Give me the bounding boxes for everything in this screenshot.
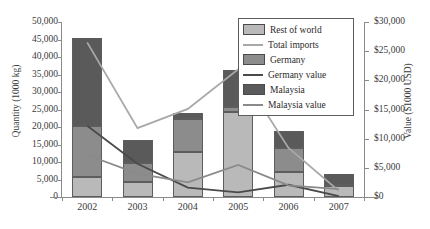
x-axis-tickmark <box>112 197 113 201</box>
y-axis-left-ticks: 05,00010,00015,00020,00025,00030,00035,0… <box>14 0 58 229</box>
y-axis-right-tickmark <box>365 80 369 81</box>
y-axis-left-tick-label: 35,000 <box>14 70 58 79</box>
y-axis-left-tick-label: 45,000 <box>14 35 58 44</box>
y-axis-right-ticks: $0$5,000$10,000$15,000$20,000$25,000$30,… <box>374 0 426 229</box>
y-axis-left-tick-label: 15,000 <box>14 140 58 149</box>
legend-line-marker <box>243 104 263 106</box>
legend-item[interactable]: Germany <box>243 52 349 67</box>
legend-swatch <box>243 54 265 65</box>
y-axis-left-tick-label: 25,000 <box>14 105 58 114</box>
y-axis-right-tick-label: $30,000 <box>374 17 405 26</box>
y-axis-right-tick-label: $20,000 <box>374 75 405 84</box>
x-axis-tickmark <box>314 197 315 201</box>
y-axis-right-tick-label: $25,000 <box>374 46 405 55</box>
y-axis-right-tick-label: $15,000 <box>374 105 405 114</box>
y-axis-left-tick-label: 5,000 <box>14 175 58 184</box>
legend-swatch <box>243 24 265 35</box>
y-axis-left-tick-label: 10,000 <box>14 157 58 166</box>
legend-label: Germany value <box>268 70 326 80</box>
x-axis-tickmark <box>213 197 214 201</box>
y-axis-left-tick-label: 20,000 <box>14 122 58 131</box>
y-axis-right-tickmark <box>365 168 369 169</box>
x-axis-tickmark <box>263 197 264 201</box>
x-axis-tickmark <box>62 197 63 201</box>
x-axis-tick-label: 2007 <box>309 201 369 212</box>
y-axis-right-line <box>364 22 365 198</box>
stacked-bar-line-chart: Quantity (1000 kg) Value ($1000 USD) 05,… <box>0 0 430 229</box>
legend-item[interactable]: Total imports <box>243 37 349 52</box>
y-axis-right-tickmark <box>365 51 369 52</box>
legend-label: Germany <box>270 55 305 65</box>
legend-label: Malaysia <box>270 85 305 95</box>
legend-line-marker <box>243 74 263 76</box>
legend-swatch <box>243 84 265 95</box>
y-axis-right-tickmark <box>365 110 369 111</box>
y-axis-left-tick-label: 40,000 <box>14 52 58 61</box>
legend-label: Malaysia value <box>268 100 326 110</box>
legend-item[interactable]: Rest of world <box>243 22 349 37</box>
legend-line-marker <box>243 44 263 46</box>
y-axis-right-tickmark <box>365 139 369 140</box>
legend-item[interactable]: Germany value <box>243 67 349 82</box>
x-axis-tickmark <box>163 197 164 201</box>
y-axis-left-tick-label: 50,000 <box>14 17 58 26</box>
y-axis-right-tick-label: $10,000 <box>374 134 405 143</box>
y-axis-right-tickmark <box>365 22 369 23</box>
y-axis-left-tick-label: 30,000 <box>14 87 58 96</box>
legend-item[interactable]: Malaysia <box>243 82 349 97</box>
x-axis-tickmark <box>364 197 365 201</box>
y-axis-right-tick-label: $5,000 <box>374 163 400 172</box>
legend-item[interactable]: Malaysia value <box>243 97 349 112</box>
legend-label: Rest of world <box>270 25 322 35</box>
chart-legend: Rest of worldTotal importsGermanyGermany… <box>238 18 354 116</box>
x-axis-line <box>50 197 380 198</box>
legend-label: Total imports <box>268 40 319 50</box>
line-series[interactable] <box>87 155 339 189</box>
